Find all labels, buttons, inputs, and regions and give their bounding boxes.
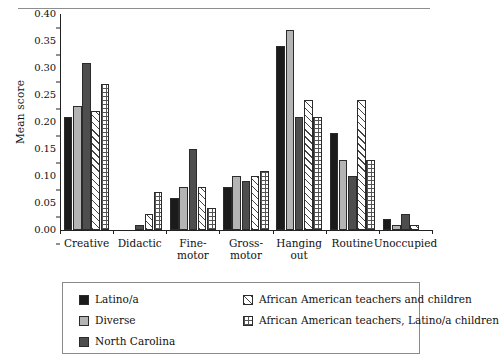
bar: [366, 160, 375, 230]
bar-group: [117, 14, 162, 230]
x-tick-mark: [219, 230, 220, 234]
legend-item: North Carolina: [79, 334, 175, 349]
bar-group: [276, 14, 321, 230]
bar: [348, 176, 357, 230]
bar: [410, 225, 419, 230]
y-tick-label: 0.10: [34, 171, 56, 181]
bar: [401, 214, 410, 230]
x-tick-mark: [326, 230, 327, 234]
y-tick-label: 0.35: [34, 36, 56, 46]
chart-legend: Latino/aDiverseNorth CarolinaAfrican Ame…: [62, 282, 420, 354]
bar: [276, 46, 285, 230]
bar: [242, 181, 251, 230]
bar: [170, 198, 179, 230]
bar: [207, 208, 216, 230]
legend-label: Diverse: [95, 315, 136, 326]
x-tick-mark: [113, 230, 114, 234]
x-tick-mark: [432, 230, 433, 234]
legend-label: African American teachers and children: [259, 294, 472, 305]
y-tick-label: 0.20: [34, 117, 56, 127]
y-tick-label: 0.40: [34, 9, 56, 19]
legend-label: North Carolina: [95, 336, 175, 347]
bar-group: [330, 14, 375, 230]
bar: [286, 30, 295, 230]
legend-item: Diverse: [79, 313, 136, 328]
legend-swatch-icon: [79, 337, 89, 347]
plot-area: Mean score 0.000.050.100.150.200.250.300…: [0, 14, 442, 246]
x-axis-line: [60, 230, 432, 231]
bar-group: [64, 14, 109, 230]
bar: [330, 133, 339, 230]
bar: [383, 219, 392, 230]
bar-series-container: [60, 14, 432, 230]
y-tick-label: 0.00: [34, 225, 56, 235]
x-tick-mark: [166, 230, 167, 234]
bar: [82, 63, 91, 230]
bar-group: [223, 14, 268, 230]
legend-swatch-icon: [79, 295, 89, 305]
bar: [91, 111, 100, 230]
clipped-caption-text: [24, 0, 324, 5]
y-tick-label: 0.15: [34, 144, 56, 154]
bar: [73, 106, 82, 230]
bar: [232, 176, 241, 230]
bar: [135, 225, 144, 230]
bar-group: [170, 14, 215, 230]
bar: [198, 187, 207, 230]
bar: [101, 84, 110, 230]
legend-swatch-icon: [243, 295, 253, 305]
bar: [295, 117, 304, 230]
legend-swatch-icon: [79, 316, 89, 326]
bar: [304, 100, 313, 230]
legend-label: African American teachers, Latino/a chil…: [259, 315, 499, 326]
y-tick-label: 0.30: [34, 63, 56, 73]
legend-label: Latino/a: [95, 294, 139, 305]
y-tick-label: 0.25: [34, 90, 56, 100]
x-tick-mark: [379, 230, 380, 234]
bar: [189, 149, 198, 230]
bar: [64, 117, 73, 230]
legend-item: African American teachers, Latino/a chil…: [243, 313, 499, 328]
top-horizontal-rule: [18, 8, 430, 9]
y-tick-label: 0.05: [34, 198, 56, 208]
legend-item: Latino/a: [79, 292, 139, 307]
bar: [145, 214, 154, 230]
bar: [251, 176, 260, 230]
bar: [179, 187, 188, 230]
legend-item: African American teachers and children: [243, 292, 472, 307]
bar: [313, 117, 322, 230]
x-tick-mark: [60, 230, 61, 234]
y-axis-tick-labels: 0.000.050.100.150.200.250.300.350.40: [14, 14, 56, 230]
bar-group: [383, 14, 428, 230]
bar: [339, 160, 348, 230]
bar: [154, 192, 163, 230]
bar: [223, 187, 232, 230]
bar: [260, 171, 269, 230]
x-tick-mark: [273, 230, 274, 234]
bar: [357, 100, 366, 230]
bar: [392, 225, 401, 230]
x-axis-category-label: Unoccupied: [371, 238, 440, 250]
legend-swatch-icon: [243, 316, 253, 326]
